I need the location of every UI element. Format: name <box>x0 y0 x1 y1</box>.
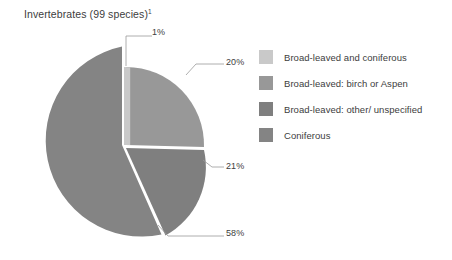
legend-swatch-icon <box>259 102 273 116</box>
legend-item-broad-leaved-birch-or-aspen: Broad-leaved: birch or Aspen <box>259 70 449 96</box>
pie-value-label-21: 21% <box>226 161 244 171</box>
legend-swatch-icon <box>259 76 273 90</box>
legend-swatch-icon <box>259 50 273 64</box>
leader-line-21 <box>203 160 224 167</box>
legend-item-broad-leaved-other-unspecified: Broad-leaved: other/ unspecified <box>259 96 449 122</box>
legend-swatch-icon <box>259 128 273 142</box>
legend-item-label: Coniferous <box>284 130 330 141</box>
leader-line-20 <box>186 64 224 75</box>
legend-item-label: Broad-leaved: birch or Aspen <box>284 78 408 89</box>
pie-value-label-20: 20% <box>226 57 244 67</box>
pie-slice-broadleaved-birch-aspen <box>126 67 204 147</box>
legend-item-coniferous: Coniferous <box>259 122 449 148</box>
pie-value-label-58: 58% <box>226 228 244 238</box>
legend-item-label: Broad-leaved: other/ unspecified <box>284 104 422 115</box>
chart-legend: Broad-leaved and coniferous Broad-leaved… <box>259 44 449 148</box>
pie-slice-broadleaved-and-coniferous <box>124 67 130 145</box>
pie-value-label-1: 1% <box>152 27 165 37</box>
legend-item-broad-leaved-and-coniferous: Broad-leaved and coniferous <box>259 44 449 70</box>
legend-item-label: Broad-leaved and coniferous <box>284 52 407 63</box>
leader-line-1 <box>126 36 152 66</box>
